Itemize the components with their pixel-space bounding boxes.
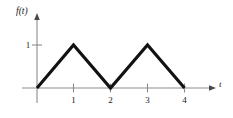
x-tick-label-1: 1 [69,96,79,105]
waveform-curve [37,45,185,88]
x-tick-label-4: 4 [180,96,190,105]
x-tick-label-2: 2 [106,96,116,105]
x-tick-label-3: 3 [143,96,153,105]
plot-canvas [0,0,233,118]
y-axis-label: f(t) [16,7,28,17]
y-axis-arrowhead [34,13,40,20]
x-axis-label: t [219,80,222,89]
x-axis-arrowhead [209,85,216,91]
triangular-wave-figure: f(t) t 1 1 2 3 4 [0,0,233,118]
y-tick-label-1: 1 [24,41,32,50]
